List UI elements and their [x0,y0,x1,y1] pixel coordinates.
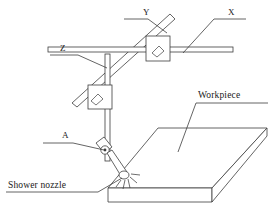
lower-carriage [88,85,112,109]
shower-nozzle-label: Shower nozzle [8,181,66,191]
leader-a [43,143,104,150]
axis-label-y: Y [143,8,150,17]
workpiece-plate [108,128,267,202]
axis-label-a: A [62,131,69,140]
x-rail [48,47,233,52]
axis-label-z: Z [60,44,66,53]
axis-label-x: X [228,8,235,17]
workpiece-label: Workpiece [198,91,240,101]
workpiece-front-face [108,188,212,202]
a-pivot-center [104,149,107,152]
x-rail-body [48,47,233,52]
upper-carriage [146,36,170,61]
a-joint-assembly [96,137,127,176]
leader-z [50,55,107,68]
diagram-root: Y X Z A Workpiece Shower nozzle [0,0,275,214]
nozzle-tip [119,171,129,179]
